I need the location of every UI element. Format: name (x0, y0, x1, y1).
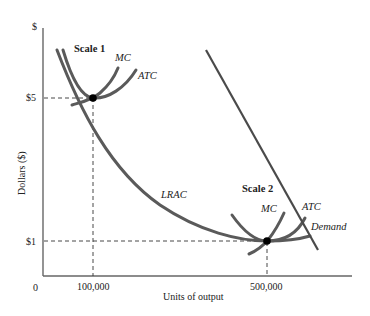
lrac-label: LRAC (160, 189, 188, 200)
x-axis-title: Units of output (163, 291, 224, 302)
scale1-guide-lines (44, 98, 93, 276)
atc-label-scale2: ATC (301, 201, 322, 212)
cost-curves-diagram: $ $5 $1 0 100,000 500,000 Units of outpu… (0, 0, 370, 316)
atc-label-scale1: ATC (137, 70, 158, 81)
y-tick-1: $1 (26, 236, 36, 247)
y-axis-top-label: $ (32, 21, 37, 32)
y-axis-title: Dollars ($) (16, 151, 28, 195)
mc-label-scale1: MC (114, 52, 132, 63)
mc-curve-scale2 (249, 213, 284, 254)
x-tick-100000: 100,000 (77, 281, 110, 292)
y-tick-5: $5 (26, 92, 36, 103)
x-tick-500000: 500,000 (250, 281, 283, 292)
origin-label: 0 (33, 282, 38, 293)
mc-label-scale2: MC (260, 203, 278, 214)
scale1-label: Scale 1 (74, 43, 105, 54)
scale2-min-point (263, 237, 271, 245)
demand-label: Demand (310, 221, 347, 232)
scale2-guide-lines (44, 241, 267, 276)
scale1-min-point (89, 94, 97, 102)
scale2-label: Scale 2 (242, 183, 273, 194)
demand-line (206, 50, 318, 250)
